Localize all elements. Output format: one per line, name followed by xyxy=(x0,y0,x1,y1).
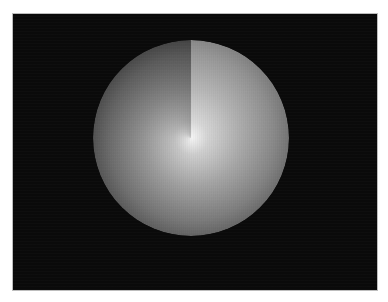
gradient-sphere xyxy=(93,40,289,236)
render-canvas xyxy=(13,14,377,290)
